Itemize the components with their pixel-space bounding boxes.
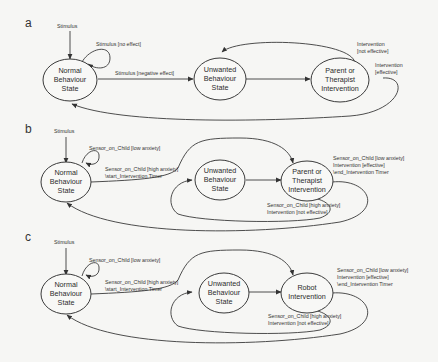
- panel-c-self-loop: [82, 263, 99, 277]
- panel-b-label: b: [25, 122, 32, 136]
- panel-c-state-unwanted-line2: Behaviour: [208, 288, 241, 297]
- panel-b-state-intervention-line2: Therapist: [292, 176, 322, 185]
- panel-b-state-unwanted-line3: State: [212, 184, 229, 193]
- panel-a-state-normal-line3: State: [62, 84, 79, 93]
- panel-a-entry-label: Stimulus: [57, 23, 78, 29]
- panel-a-state-intervention-line1: Parent or: [325, 66, 355, 75]
- panel-c-state-unwanted-line3: State: [216, 297, 233, 306]
- panel-b-high-anxiety-label-2: \start_Intervention Timer: [105, 173, 162, 179]
- state-machine-figure: a Stimulus Stimulus [no effect] Stimulus…: [0, 0, 438, 362]
- panel-a-state-unwanted-line3: State: [212, 83, 229, 92]
- panel-a-label: a: [25, 16, 32, 30]
- panel-b-effective-label-1: Sensor_on_Child [low anxiety]: [333, 155, 405, 161]
- panel-c-effective-label-2: Intervention [effective]: [337, 274, 389, 280]
- panel-c-effective-label-1: Sensor_on_Child [low anxiety]: [337, 267, 409, 273]
- panel-b: b Stimulus Sensor_on_Child [low anxiety]…: [25, 122, 405, 231]
- panel-a-state-unwanted-line1: Unwanted: [204, 65, 236, 74]
- panel-a: a Stimulus Stimulus [no effect] Stimulus…: [25, 16, 403, 120]
- panel-a-effective-label-2: [effective]: [375, 69, 398, 75]
- panel-b-state-intervention-line3: Intervention: [288, 185, 326, 194]
- panel-c-state-normal-line3: State: [58, 298, 75, 307]
- panel-c-state-normal-line2: Behaviour: [50, 289, 83, 298]
- panel-c-state-normal-line1: Normal: [54, 280, 78, 289]
- panel-b-not-effective-label-2: Intervention [not effective]: [267, 209, 328, 215]
- panel-c-high-anxiety-label-2: \start_Intervention Timer: [105, 286, 162, 292]
- panel-c-entry-label: Stimulus: [54, 239, 75, 245]
- panel-b-state-normal-line2: Behaviour: [50, 177, 83, 186]
- panel-c-not-effective-label-1: Sensor_on_Child [high anxiety]: [268, 313, 342, 319]
- panel-b-not-effective-label-1: Sensor_on_Child [high anxiety]: [267, 202, 341, 208]
- panel-a-state-normal-line2: Behaviour: [54, 75, 87, 84]
- panel-b-state-unwanted-line1: Unwanted: [204, 166, 236, 175]
- panel-c: c Stimulus Sensor_on_Child [low anxiety]…: [25, 230, 409, 343]
- panel-a-state-normal-line1: Normal: [58, 66, 82, 75]
- panel-c-effective-label-3: \end_Intervention Timer: [337, 281, 393, 287]
- panel-b-state-intervention-line1: Parent or: [292, 167, 322, 176]
- panel-b-self-loop-label: Sensor_on_Child [low anxiety]: [89, 145, 161, 151]
- panel-c-label: c: [25, 230, 31, 244]
- panel-a-effective-label-1: Intervention: [375, 62, 403, 68]
- panel-a-not-effective-label-1: Intervention: [357, 41, 385, 47]
- panel-b-entry-label: Stimulus: [54, 128, 75, 134]
- panel-b-self-loop: [82, 151, 99, 165]
- panel-b-effective-label-2: Intervention [effective]: [333, 162, 385, 168]
- panel-c-state-unwanted-line1: Unwanted: [208, 279, 240, 288]
- panel-a-state-intervention-line2: Therapist: [325, 75, 355, 84]
- panel-b-state-unwanted-line2: Behaviour: [204, 175, 237, 184]
- panel-b-effective-label-3: \end_Intervention Timer: [333, 169, 389, 175]
- panel-a-state-intervention-line3: Intervention: [321, 84, 359, 93]
- panel-c-state-intervention-line2: Intervention: [288, 292, 326, 301]
- panel-c-high-anxiety-label-1: Sensor_on_Child [high anxiety]: [105, 279, 179, 285]
- panel-b-state-normal-line1: Normal: [54, 168, 78, 177]
- panel-b-state-normal-line3: State: [58, 186, 75, 195]
- panel-b-high-anxiety-label-1: Sensor_on_Child [high anxiety]: [105, 166, 179, 172]
- panel-c-not-effective-label-2: Intervention [not effective]: [268, 320, 329, 326]
- panel-a-edge-normal-unwanted-label: Stimulus [negative effect]: [115, 70, 175, 76]
- panel-c-state-intervention-line1: Robot: [297, 283, 316, 292]
- panel-c-self-loop-label: Sensor_on_Child [low anxiety]: [89, 257, 161, 263]
- panel-a-not-effective-label-2: [not effective]: [357, 48, 389, 54]
- panel-a-self-loop-label: Stimulus [no effect]: [96, 41, 141, 47]
- panel-a-state-unwanted-line2: Behaviour: [204, 74, 237, 83]
